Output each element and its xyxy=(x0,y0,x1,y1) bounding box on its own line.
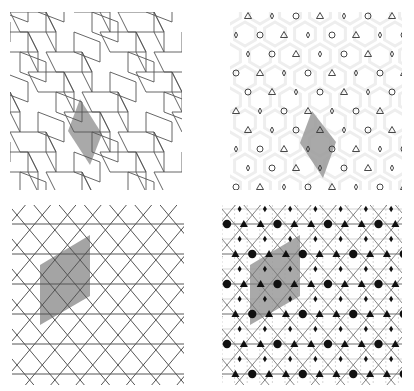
panel-bottom-right xyxy=(222,205,402,385)
pattern-bottom-left xyxy=(12,205,184,385)
panel-bottom-left xyxy=(12,205,184,385)
panel-top-right xyxy=(230,12,402,190)
pattern-top-left xyxy=(10,12,182,190)
pattern-top-right xyxy=(230,12,402,190)
panel-top-left xyxy=(10,12,182,190)
pattern-bottom-right xyxy=(222,205,402,385)
